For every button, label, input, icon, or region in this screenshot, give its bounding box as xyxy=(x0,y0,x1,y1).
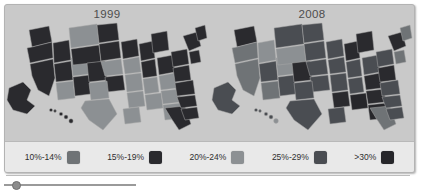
state-nm xyxy=(73,75,91,96)
state-mn xyxy=(326,39,344,59)
state-pa xyxy=(376,49,394,67)
state-ca xyxy=(235,59,260,96)
state-ar xyxy=(332,91,350,108)
state-va xyxy=(380,80,400,96)
scrollbar-handle[interactable] xyxy=(12,181,21,190)
state-mi xyxy=(151,31,169,53)
state-wv xyxy=(378,65,396,82)
state-ms xyxy=(145,93,163,110)
state-ne xyxy=(306,59,328,76)
state-il xyxy=(141,59,157,78)
state-mo xyxy=(330,73,348,92)
state-hi-5 xyxy=(69,119,73,123)
scrollbar-track[interactable] xyxy=(4,184,136,186)
maps-row: 1999 xyxy=(5,5,414,141)
legend: 10%-14% 15%-19% 20%-24% 25%-29% >30% xyxy=(5,141,414,172)
state-mi xyxy=(356,31,374,53)
state-mo xyxy=(125,73,143,92)
state-in xyxy=(143,77,159,94)
legend-label-0: 10%-14% xyxy=(25,152,62,162)
legend-swatch-3 xyxy=(314,151,327,164)
state-va xyxy=(175,80,195,96)
state-il xyxy=(346,59,362,78)
legend-label-1: 15%-19% xyxy=(107,152,144,162)
state-tx xyxy=(286,99,322,130)
legend-item-3: 25%-29% xyxy=(272,151,327,164)
state-ca xyxy=(30,59,55,96)
legend-swatch-2 xyxy=(231,151,244,164)
state-sd xyxy=(99,41,121,61)
state-in xyxy=(348,77,364,94)
state-mn xyxy=(121,39,139,59)
legend-label-4: >30% xyxy=(354,152,376,162)
legend-swatch-0 xyxy=(67,151,80,164)
map-1999-svg xyxy=(5,18,209,138)
state-hi-2 xyxy=(259,110,262,113)
state-ok xyxy=(294,81,314,100)
map-2008: 2008 xyxy=(210,5,414,141)
legend-swatch-1 xyxy=(149,151,162,164)
state-hi-3 xyxy=(264,112,268,116)
legend-item-2: 20%-24% xyxy=(190,151,245,164)
figure-container: 1999 xyxy=(0,0,424,190)
map-1999: 1999 xyxy=(5,5,209,141)
state-la xyxy=(328,107,346,124)
state-ms xyxy=(350,93,368,110)
state-ar xyxy=(127,91,145,108)
state-hi-4 xyxy=(269,115,273,119)
map-figure-panel: 1999 xyxy=(4,4,415,173)
legend-label-2: 20%-24% xyxy=(190,152,227,162)
state-hi-5 xyxy=(274,119,279,124)
legend-item-0: 10%-14% xyxy=(25,151,80,164)
state-nd xyxy=(97,23,119,43)
horizontal-scrollbar[interactable] xyxy=(4,180,136,189)
state-la xyxy=(123,107,141,124)
state-ia xyxy=(328,57,346,74)
state-mt xyxy=(69,24,99,48)
state-nd xyxy=(302,23,324,43)
state-nm xyxy=(278,75,296,96)
legend-label-3: 25%-29% xyxy=(272,152,309,162)
states-1999 xyxy=(7,23,207,130)
state-hi-1 xyxy=(49,108,52,111)
state-ok xyxy=(89,81,109,100)
state-nv xyxy=(54,61,73,82)
state-sd xyxy=(304,41,326,61)
state-nv xyxy=(259,61,278,82)
state-ne xyxy=(101,59,123,76)
state-hi-4 xyxy=(64,115,68,119)
state-hi-3 xyxy=(59,112,63,116)
legend-swatch-4 xyxy=(381,151,394,164)
state-nj-md xyxy=(394,50,406,64)
legend-item-4: >30% xyxy=(354,151,394,164)
state-hi-2 xyxy=(54,110,57,113)
divider-line xyxy=(6,175,410,176)
state-wv xyxy=(173,65,191,82)
state-ak xyxy=(212,82,240,114)
state-mt xyxy=(274,24,304,48)
state-pa xyxy=(171,49,189,67)
legend-item-1: 15%-19% xyxy=(107,151,162,164)
state-az xyxy=(261,81,280,100)
state-az xyxy=(56,81,75,100)
state-nj-md xyxy=(189,50,201,64)
state-ak xyxy=(7,82,35,114)
states-2008 xyxy=(212,23,412,130)
state-id xyxy=(258,40,276,63)
state-ia xyxy=(123,57,141,74)
state-hi-1 xyxy=(254,108,257,111)
map-2008-svg xyxy=(210,18,414,138)
state-id xyxy=(53,40,71,63)
state-tx xyxy=(81,99,117,130)
